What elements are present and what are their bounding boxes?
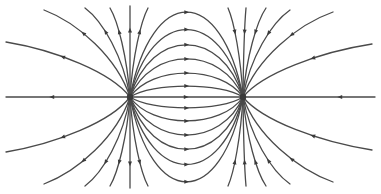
arrow-icon [184,71,189,75]
outer-left-field-line [6,97,130,152]
arrow-icon [184,28,189,32]
outer-left-field-line [6,42,130,97]
arrow-icon [128,161,132,166]
arrow-icon [128,28,132,33]
arrow-icon [253,29,258,35]
arrow-icon [242,159,246,164]
outer-left-field-line [85,97,130,186]
inner-field-line [130,97,243,149]
arrow-icon [337,95,342,99]
arrow-icon [184,10,189,14]
arrow-icon [184,119,189,123]
arrow-icon [253,159,258,165]
arrow-icon [242,30,246,35]
arrow-icon [184,57,189,61]
arrow-icon [184,43,189,47]
outer-right-field-line [243,97,372,150]
inner-field-line [130,45,243,97]
arrow-icon [184,84,189,88]
arrow-icon [49,95,54,99]
arrow-icon [184,95,189,99]
arrow-icon [184,133,189,137]
arrow-icon [184,162,189,166]
arrow-icon [184,106,189,110]
arrow-icon [60,135,66,140]
field-lines [6,6,375,188]
left-charge-point [127,94,133,100]
arrow-icon [184,180,189,184]
right-charge-point [240,94,246,100]
arrow-icon [60,54,66,59]
inner-field-line [130,86,243,97]
outer-right-field-line [243,44,372,97]
dipole-field-diagram: Electric dipole field lines [0,0,381,194]
outer-left-field-line [85,8,130,97]
arrow-icon [184,147,189,151]
inner-field-line [130,97,243,108]
